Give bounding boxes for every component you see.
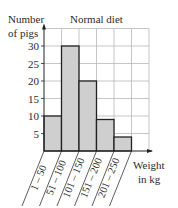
- histogram-bar: [44, 116, 62, 151]
- histogram-bar: [79, 81, 97, 151]
- y-tick-label: 5: [34, 128, 40, 140]
- histogram-bar: [97, 120, 115, 152]
- histogram-bar: [114, 137, 132, 151]
- x-axis-arrow-icon: [147, 149, 153, 153]
- y-tick-label: 25: [28, 58, 40, 70]
- y-tick-label: 20: [28, 75, 40, 87]
- y-tick-label: 15: [28, 93, 40, 105]
- histogram-bar: [62, 46, 80, 151]
- y-axis-arrow-icon: [42, 24, 46, 30]
- y-tick-label: 10: [28, 110, 40, 122]
- y-tick-label: 30: [28, 40, 40, 52]
- histogram-plot: 510152025301 – 5051 – 100101 – 150151 – …: [0, 0, 178, 208]
